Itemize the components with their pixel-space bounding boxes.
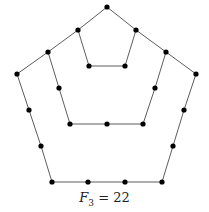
graph-node xyxy=(67,121,72,126)
graph-node xyxy=(122,63,127,68)
graph-node xyxy=(56,85,61,90)
graph-node xyxy=(85,179,90,184)
graph-edge xyxy=(17,7,196,182)
graph-node xyxy=(75,27,80,32)
pentagon-graph xyxy=(0,0,209,212)
graph-node xyxy=(152,85,157,90)
graph-node xyxy=(159,179,164,184)
graph-edge xyxy=(48,52,166,124)
graph-node xyxy=(163,49,168,54)
graph-node xyxy=(170,143,175,148)
graph-node xyxy=(26,107,31,112)
graph-node xyxy=(181,107,186,112)
figure-caption: F3 = 22 xyxy=(0,190,209,208)
graph-node xyxy=(122,179,127,184)
graph-node xyxy=(104,121,109,126)
graph-node xyxy=(14,71,19,76)
caption-value: = 22 xyxy=(94,190,130,205)
caption-var: F xyxy=(79,190,88,205)
graph-node xyxy=(133,27,138,32)
graph-node xyxy=(140,121,145,126)
graph-node xyxy=(45,49,50,54)
graph-node xyxy=(38,143,43,148)
graph-node xyxy=(49,179,54,184)
graph-edge xyxy=(78,30,136,66)
graph-node xyxy=(104,4,109,9)
graph-node xyxy=(86,63,91,68)
graph-node xyxy=(193,71,198,76)
